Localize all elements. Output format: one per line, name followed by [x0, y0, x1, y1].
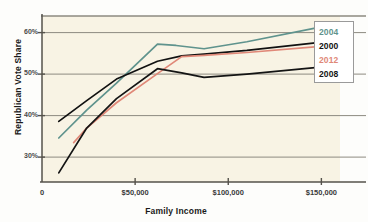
y-tick-label: 60%: [16, 28, 38, 35]
legend-item-2004: 2004: [319, 25, 353, 39]
x-tick-label: $100,000: [198, 188, 258, 197]
legend-item-2008: 2008: [319, 67, 353, 81]
x-tick-label: 0: [12, 188, 72, 197]
y-axis-title: Republican Vote Share: [13, 22, 23, 152]
x-tick-label: $50,000: [105, 188, 165, 197]
legend-item-2000: 2000: [319, 39, 353, 53]
x-tick-label: $150,000: [291, 188, 351, 197]
republican-vote-share-chart: Republican Vote Share Family Income 30%4…: [0, 0, 368, 222]
y-tick-label: 40%: [16, 111, 38, 118]
y-tick-label: 50%: [16, 69, 38, 76]
x-axis-title: Family Income: [42, 206, 310, 216]
y-tick-label: 30%: [16, 152, 38, 159]
legend: 2004200020122008: [314, 21, 354, 83]
legend-item-2012: 2012: [319, 53, 353, 67]
